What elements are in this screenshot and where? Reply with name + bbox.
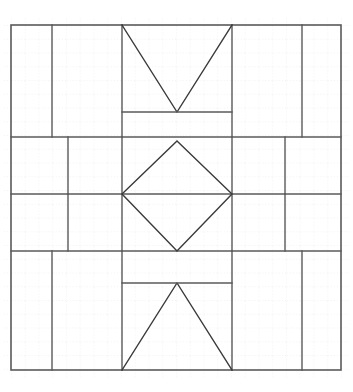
drawing-canvas [0,0,353,392]
quilt-block-figure [0,0,353,392]
graph-paper-grid [0,0,353,392]
